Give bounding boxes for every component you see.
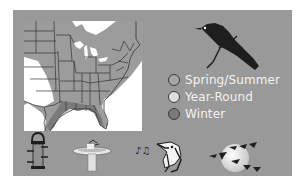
year-round-swatch-icon: [168, 91, 180, 103]
migrating-flock-icon: [207, 141, 269, 179]
range-map: [24, 21, 142, 131]
legend: Spring/Summer Year-Round Winter: [168, 71, 280, 122]
legend-item-year-round: Year-Round: [168, 88, 280, 105]
winter-swatch-icon: [168, 108, 180, 120]
singing-bird-icon: ♪♫: [135, 138, 191, 180]
legend-label: Winter: [185, 108, 225, 120]
legend-label: Year-Round: [185, 91, 253, 103]
legend-item-winter: Winter: [168, 105, 280, 122]
eastern-us-map-icon: [24, 21, 142, 131]
bird-silhouette-icon: [193, 18, 263, 76]
legend-item-spring-summer: Spring/Summer: [168, 71, 280, 88]
svg-text:♪♫: ♪♫: [135, 145, 150, 156]
spring-summer-swatch-icon: [168, 74, 180, 86]
bird-feeder-icon: [23, 131, 53, 175]
bird-bath-icon: [71, 139, 113, 177]
legend-label: Spring/Summer: [185, 74, 280, 86]
range-map-panel: Spring/Summer Year-Round Winter: [13, 10, 292, 176]
